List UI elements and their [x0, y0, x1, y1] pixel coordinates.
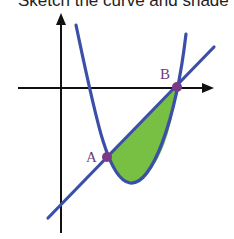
point-a-label: A: [86, 149, 97, 165]
y-axis-arrow-icon: [56, 13, 66, 25]
x-axis-arrow-icon: [202, 83, 214, 93]
point-a: [102, 152, 112, 162]
straight-line: [48, 47, 214, 218]
point-b: [172, 82, 182, 92]
diagram: A B: [0, 0, 234, 239]
point-b-label: B: [160, 66, 170, 82]
